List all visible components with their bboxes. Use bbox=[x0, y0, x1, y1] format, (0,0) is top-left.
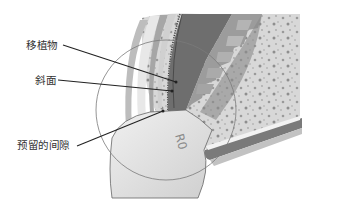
crown: R0 bbox=[110, 110, 212, 198]
implant-diagram: R0 移植物 斜面 预留的间隙 bbox=[0, 0, 341, 201]
label-bevel: 斜面 bbox=[35, 74, 56, 86]
label-implant: 移植物 bbox=[26, 39, 58, 51]
label-reserved-gap: 预留的间隙 bbox=[17, 139, 70, 151]
implant-illustration: R0 bbox=[0, 0, 341, 201]
